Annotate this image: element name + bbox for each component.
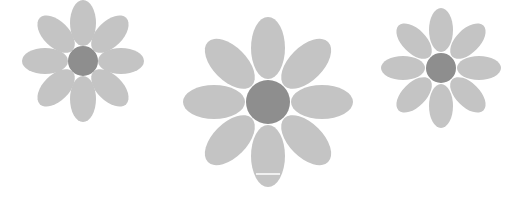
right-flower [381,8,501,128]
left-flower [0,0,519,201]
flower-center [426,53,456,83]
middle-flower [183,17,353,187]
petal [251,17,285,79]
petal [457,56,501,80]
flower-center [68,46,98,76]
flower-center [246,80,290,124]
petal [429,84,453,128]
petal [183,85,245,119]
petal [381,56,425,80]
petal [429,8,453,52]
flower-icon [0,0,519,201]
petal [251,125,285,187]
petal [291,85,353,119]
